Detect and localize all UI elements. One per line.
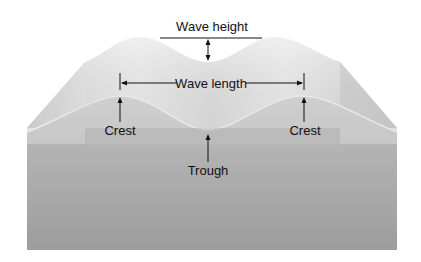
trough-label: Trough [188, 163, 229, 178]
wave-height-label: Wave height [176, 19, 248, 34]
wave-front-face [27, 144, 397, 250]
wave-diagram: Wave height Wave length Crest Crest Trou… [0, 0, 421, 262]
crest-right-label: Crest [289, 123, 320, 138]
crest-left-label: Crest [104, 123, 135, 138]
wave-height-arrowhead-down [206, 55, 211, 61]
wave-length-label: Wave length [175, 76, 247, 91]
wave-height-arrowhead-up [206, 39, 211, 45]
